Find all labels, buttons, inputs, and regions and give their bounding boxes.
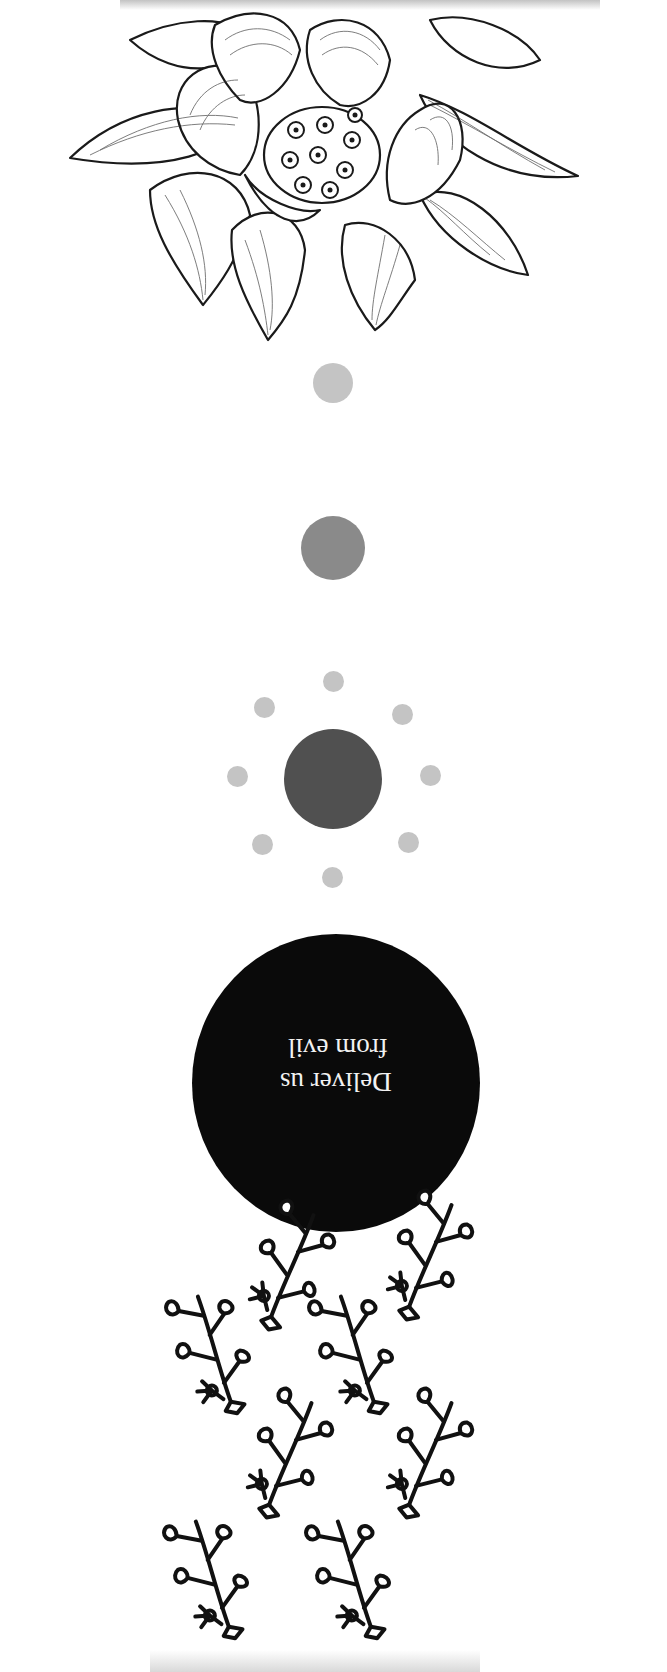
small-light-dot <box>313 363 353 403</box>
ring-dot <box>252 834 273 855</box>
caption-line-2: from evil <box>280 1031 392 1065</box>
lotus-flower-icon <box>0 0 667 360</box>
ring-dot <box>420 765 441 786</box>
ring-dot <box>398 832 419 853</box>
black-circle: Deliver us from evil <box>192 934 480 1232</box>
caption-line-1: Deliver us <box>280 1065 392 1099</box>
ring-dot <box>323 671 344 692</box>
circle-caption: Deliver us from evil <box>280 1031 392 1099</box>
dark-center-dot <box>284 729 382 829</box>
ring-dot <box>254 697 275 718</box>
bottom-edge-shadow <box>150 1650 480 1672</box>
medium-gray-dot <box>301 516 365 580</box>
ring-dot <box>227 766 248 787</box>
ring-dot <box>322 867 343 888</box>
ring-dot <box>392 704 413 725</box>
leafy-branch-pattern-icon <box>0 1195 667 1672</box>
